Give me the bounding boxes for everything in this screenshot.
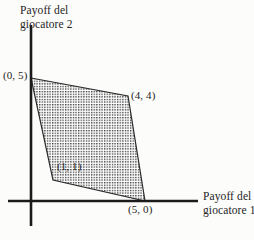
- vertex-label-0-5: (0, 5): [3, 69, 27, 82]
- vertex-label-4-4: (4, 4): [131, 89, 155, 102]
- payoff-set-figure: Payoff del giocatore 2 Payoff del giocat…: [0, 0, 254, 240]
- feasible-payoff-region: [31, 78, 145, 201]
- y-axis-title: Payoff del giocatore 2: [20, 4, 73, 31]
- x-axis-title: Payoff del giocatore 1: [203, 190, 254, 217]
- vertex-label-1-1: (1, 1): [57, 160, 81, 173]
- vertex-label-5-0: (5, 0): [128, 203, 152, 216]
